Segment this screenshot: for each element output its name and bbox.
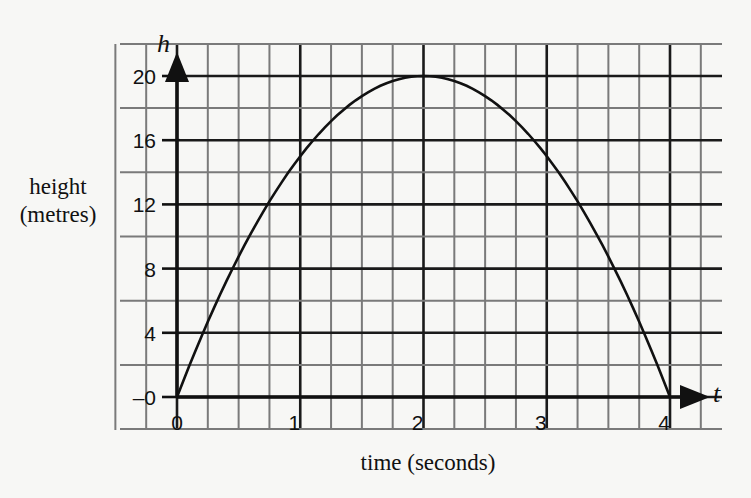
grid bbox=[115, 44, 722, 430]
axes bbox=[165, 52, 710, 409]
x-axis-label: time (seconds) bbox=[361, 450, 496, 475]
y-tick-label: 12 bbox=[133, 193, 156, 216]
y-tick-label: –0 bbox=[133, 386, 156, 409]
y-tick-label: 20 bbox=[133, 65, 156, 88]
x-tick-label: 3 bbox=[535, 411, 547, 434]
y-axis-label-line2: (metres) bbox=[20, 202, 97, 227]
x-tick-labels: 01234 bbox=[171, 411, 670, 434]
y-axis-variable: h bbox=[157, 29, 170, 58]
x-tick-label: 2 bbox=[412, 411, 424, 434]
x-tick-label: 0 bbox=[171, 411, 183, 434]
x-axis-arrow-icon bbox=[680, 385, 710, 409]
y-tick-label: 8 bbox=[144, 258, 156, 281]
y-tick-label: 16 bbox=[133, 129, 156, 152]
x-tick-label: 4 bbox=[658, 411, 670, 434]
x-tick-label: 1 bbox=[288, 411, 300, 434]
height-time-chart: 01234 –048121620 h t height (metres) tim… bbox=[0, 0, 751, 498]
y-axis-label-line1: height bbox=[29, 174, 87, 199]
y-tick-label: 4 bbox=[144, 322, 156, 345]
x-axis-variable: t bbox=[713, 379, 721, 408]
